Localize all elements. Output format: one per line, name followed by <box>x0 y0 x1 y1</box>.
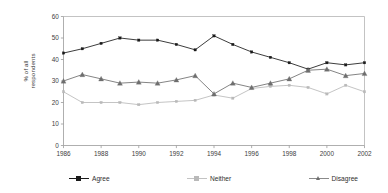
data-point-neither-1986 <box>62 91 64 93</box>
data-point-neither-1987 <box>81 101 83 103</box>
data-point-neither-1999 <box>307 86 309 88</box>
data-point-neither-1998 <box>288 84 290 86</box>
data-point-disagree-1993 <box>193 73 198 78</box>
data-point-agree-1987 <box>81 48 83 50</box>
legend-swatch-neither <box>187 174 207 182</box>
data-point-agree-1995 <box>232 43 234 45</box>
data-point-disagree-1998 <box>287 76 292 81</box>
data-point-neither-2002 <box>363 91 365 93</box>
legend-swatch-disagree <box>309 174 329 182</box>
x-tick-label: 1994 <box>207 150 222 157</box>
y-tick-label: 60 <box>52 13 60 20</box>
x-tick-label: 2000 <box>320 150 335 157</box>
y-tick-label: 10 <box>52 120 60 127</box>
data-point-agree-1989 <box>119 37 121 39</box>
y-tick-label: 20 <box>52 99 60 106</box>
legend-label-neither: Neither <box>210 175 231 182</box>
x-tick-label: 1996 <box>245 150 260 157</box>
y-tick-label: 0 <box>55 142 59 149</box>
series-line-agree <box>64 36 365 69</box>
x-tick-label: 1992 <box>169 150 184 157</box>
data-point-neither-1993 <box>194 99 196 101</box>
data-point-agree-2002 <box>363 62 365 64</box>
chart-legend: Agree Neither Disagree <box>63 170 364 186</box>
data-point-agree-1992 <box>175 43 177 45</box>
data-point-agree-1997 <box>269 56 271 58</box>
data-point-neither-2000 <box>326 93 328 95</box>
x-tick-label: 1990 <box>132 150 147 157</box>
data-point-disagree-1987 <box>80 72 85 77</box>
legend-label-disagree: Disagree <box>332 175 358 182</box>
data-point-agree-1991 <box>156 39 158 41</box>
data-point-disagree-1995 <box>230 81 235 86</box>
data-point-agree-1990 <box>138 39 140 41</box>
data-point-neither-1992 <box>175 100 177 102</box>
x-tick-label: 2002 <box>357 150 372 157</box>
data-point-neither-1995 <box>232 97 234 99</box>
data-point-neither-1988 <box>100 101 102 103</box>
legend-item-disagree[interactable]: Disagree <box>309 174 358 182</box>
data-point-neither-1990 <box>138 103 140 105</box>
series-line-disagree <box>64 69 365 94</box>
legend-label-agree: Agree <box>92 175 110 182</box>
data-point-agree-1998 <box>288 62 290 64</box>
data-point-neither-1989 <box>119 101 121 103</box>
x-tick-label: 1988 <box>94 150 109 157</box>
line-chart: % of all respondents 0102030405060198619… <box>0 0 388 193</box>
data-point-agree-1988 <box>100 42 102 44</box>
y-tick-label: 50 <box>52 34 60 41</box>
data-point-agree-1993 <box>194 49 196 51</box>
data-point-neither-1991 <box>156 101 158 103</box>
legend-swatch-agree <box>69 174 89 182</box>
x-tick-label: 1998 <box>282 150 297 157</box>
data-point-agree-1996 <box>250 51 252 53</box>
data-point-agree-1986 <box>62 52 64 54</box>
data-point-neither-2001 <box>344 84 346 86</box>
data-point-agree-2000 <box>326 62 328 64</box>
data-point-agree-2001 <box>344 64 346 66</box>
x-tick-label: 1986 <box>56 150 71 157</box>
data-point-neither-1997 <box>269 85 271 87</box>
y-tick-label: 40 <box>52 56 60 63</box>
legend-item-agree[interactable]: Agree <box>69 174 110 182</box>
data-point-agree-1994 <box>213 35 215 37</box>
plot-area: 0102030405060198619881990199219941996199… <box>0 0 388 193</box>
y-tick-label: 30 <box>52 77 60 84</box>
legend-item-neither[interactable]: Neither <box>187 174 231 182</box>
